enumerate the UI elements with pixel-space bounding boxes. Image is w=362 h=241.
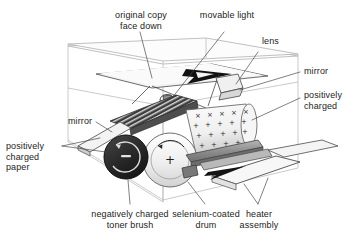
- label-original-copy-face-down: original copy face down: [96, 10, 186, 31]
- label-movable-light: movable light: [188, 10, 266, 21]
- svg-text:+: +: [232, 129, 238, 137]
- selenium-coated-drum: +: [143, 133, 197, 187]
- svg-text:+: +: [217, 120, 223, 128]
- label-lens: lens: [262, 36, 302, 47]
- glass-platen-and-original: [96, 64, 268, 89]
- label-positively-charged-right: positively charged: [304, 90, 362, 111]
- svg-text:×: ×: [231, 109, 237, 117]
- photocopier-illustration: ××× ×× +++ ++ +++ ++ +++ + +: [0, 0, 362, 241]
- svg-text:+: +: [193, 122, 199, 130]
- svg-text:+: +: [220, 130, 226, 138]
- paper-feed-sheet: [268, 140, 338, 157]
- label-positively-charged-paper: positively charged paper: [6, 141, 62, 173]
- label-mirror-right: mirror: [304, 66, 358, 77]
- svg-text:+: +: [211, 141, 217, 149]
- svg-text:+: +: [241, 118, 247, 126]
- label-heater-assembly: heater assembly: [228, 209, 290, 230]
- svg-text:+: +: [199, 142, 205, 150]
- svg-text:×: ×: [207, 111, 213, 119]
- svg-text:+: +: [165, 153, 175, 167]
- svg-text:+: +: [229, 119, 235, 127]
- lens-assembly: [216, 74, 243, 100]
- diagram-canvas: ××× ×× +++ ++ +++ ++ +++ + +: [0, 0, 362, 241]
- svg-text:+: +: [242, 128, 248, 136]
- svg-text:+: +: [205, 121, 211, 129]
- svg-text:×: ×: [243, 108, 249, 116]
- svg-text:×: ×: [219, 110, 225, 118]
- toner-brush-roller: [104, 135, 148, 179]
- svg-text:+: +: [196, 132, 202, 140]
- svg-text:×: ×: [195, 112, 201, 120]
- label-mirror-left: mirror: [68, 116, 110, 127]
- svg-text:+: +: [208, 131, 214, 139]
